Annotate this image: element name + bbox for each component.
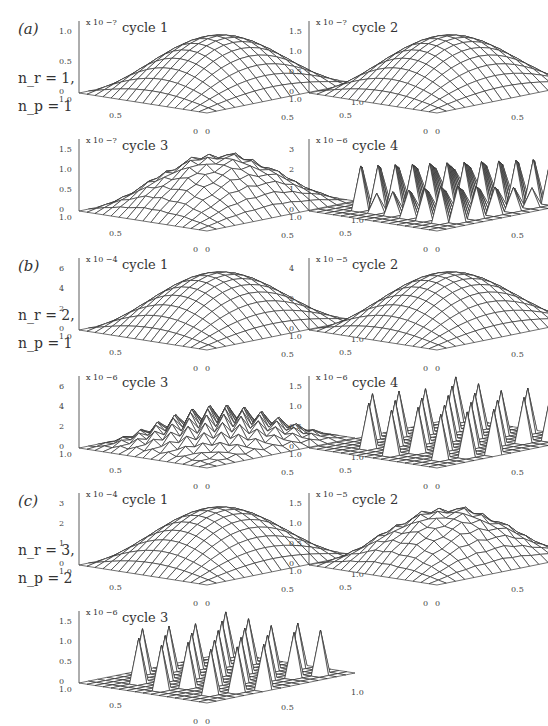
x-tick: 1.0 bbox=[59, 685, 72, 694]
y-tick: 0.5 bbox=[511, 350, 524, 359]
x-tick: 0 bbox=[423, 127, 428, 136]
x-tick: 0 bbox=[423, 364, 428, 373]
mesh-surface bbox=[62, 18, 312, 136]
z-tick: 1.0 bbox=[289, 402, 302, 411]
y-tick: 0.5 bbox=[511, 468, 524, 477]
z-tick: 4 bbox=[289, 264, 294, 273]
mesh-surface bbox=[62, 608, 312, 726]
y-tick: 0 bbox=[205, 127, 210, 136]
surface-plot: x 10 −6cycle 41.51.00.501.00.5000.51.0 bbox=[292, 373, 542, 491]
x-tick: 0 bbox=[193, 364, 198, 373]
y-tick: 0 bbox=[205, 717, 210, 726]
x-tick: 0 bbox=[193, 245, 198, 254]
x-tick: 0.5 bbox=[339, 111, 352, 120]
z-tick: 1.0 bbox=[289, 47, 302, 56]
x-tick: 1.0 bbox=[289, 332, 302, 341]
z-tick: 1.5 bbox=[289, 382, 302, 391]
x-tick: 1.0 bbox=[59, 450, 72, 459]
y-tick: 0 bbox=[205, 599, 210, 608]
mesh-surface bbox=[62, 373, 312, 491]
mesh-surface bbox=[62, 255, 312, 373]
y-tick: 0 bbox=[205, 364, 210, 373]
y-tick: 1.0 bbox=[351, 688, 364, 697]
z-tick: 0.5 bbox=[59, 57, 72, 66]
z-tick: 1.5 bbox=[289, 499, 302, 508]
x-tick: 1.0 bbox=[59, 213, 72, 222]
mesh-surface bbox=[292, 255, 542, 373]
z-tick: 6 bbox=[59, 382, 64, 391]
z-tick: 1.5 bbox=[59, 617, 72, 626]
surface-plot: x 10 −?cycle 11.00.501.00.5000.51.0 bbox=[62, 18, 312, 136]
z-tick: 1 bbox=[289, 185, 294, 194]
z-tick: 2 bbox=[59, 519, 64, 528]
z-tick: 1.0 bbox=[59, 27, 72, 36]
x-tick: 0 bbox=[423, 599, 428, 608]
y-tick: 0.5 bbox=[281, 703, 294, 712]
z-tick: 3 bbox=[59, 499, 64, 508]
x-tick: 0 bbox=[423, 245, 428, 254]
y-tick: 0 bbox=[435, 245, 440, 254]
panel-label: (b) bbox=[18, 257, 39, 275]
z-tick: 1.5 bbox=[59, 145, 72, 154]
z-tick: 2 bbox=[289, 294, 294, 303]
z-tick: 1.0 bbox=[59, 637, 72, 646]
surface-plot: x 10 −4cycle 164201.00.5000.51.0 bbox=[62, 255, 312, 373]
surface-plot: x 10 −5cycle 21.51.00.501.00.5000.51.0 bbox=[292, 490, 542, 608]
surface-plot: x 10 −?cycle 31.51.00.501.00.5000.51.0 bbox=[62, 136, 312, 254]
surface-plot: x 10 −6cycle 31.51.00.501.00.5000.51.0 bbox=[62, 608, 312, 726]
x-tick: 0.5 bbox=[109, 111, 122, 120]
x-tick: 1.0 bbox=[59, 332, 72, 341]
z-tick: 0.5 bbox=[59, 185, 72, 194]
z-tick: 6 bbox=[59, 264, 64, 273]
x-tick: 1.0 bbox=[59, 95, 72, 104]
x-tick: 0.5 bbox=[109, 466, 122, 475]
mesh-surface bbox=[292, 490, 542, 608]
surface-plot: x 10 −4cycle 132101.00.5000.51.0 bbox=[62, 490, 312, 608]
z-tick: 0.5 bbox=[289, 539, 302, 548]
x-tick: 0.5 bbox=[109, 583, 122, 592]
y-tick: 0.5 bbox=[511, 231, 524, 240]
x-tick: 0.5 bbox=[109, 701, 122, 710]
x-tick: 1.0 bbox=[289, 450, 302, 459]
y-tick: 0 bbox=[435, 364, 440, 373]
panel-label: (a) bbox=[18, 20, 39, 38]
mesh-surface bbox=[62, 136, 312, 254]
x-tick: 0.5 bbox=[339, 466, 352, 475]
y-tick: 0.5 bbox=[511, 113, 524, 122]
x-tick: 0.5 bbox=[109, 229, 122, 238]
y-tick: 0 bbox=[435, 127, 440, 136]
z-tick: 2 bbox=[59, 422, 64, 431]
x-tick: 1.0 bbox=[289, 567, 302, 576]
z-tick: 1.0 bbox=[59, 165, 72, 174]
z-tick: 1.5 bbox=[289, 27, 302, 36]
y-tick: 0 bbox=[435, 599, 440, 608]
surface-plot: x 10 −5cycle 24201.00.5000.51.0 bbox=[292, 255, 542, 373]
z-tick: 1.0 bbox=[289, 519, 302, 528]
surface-plot: x 10 −6cycle 364201.00.5000.51.0 bbox=[62, 373, 312, 491]
z-tick: 4 bbox=[59, 402, 64, 411]
z-tick: 0.5 bbox=[59, 657, 72, 666]
x-tick: 1.0 bbox=[59, 567, 72, 576]
x-tick: 0.5 bbox=[339, 229, 352, 238]
z-tick: 0.5 bbox=[289, 422, 302, 431]
z-tick: 0.5 bbox=[289, 67, 302, 76]
x-tick: 0.5 bbox=[109, 348, 122, 357]
z-tick: 4 bbox=[59, 284, 64, 293]
z-tick: 1 bbox=[59, 539, 64, 548]
x-tick: 1.0 bbox=[289, 95, 302, 104]
mesh-surface bbox=[292, 136, 542, 254]
x-tick: 0 bbox=[193, 127, 198, 136]
z-tick: 2 bbox=[289, 165, 294, 174]
surface-plot: x 10 −6cycle 432101.00.5000.51.0 bbox=[292, 136, 542, 254]
y-tick: 0 bbox=[205, 245, 210, 254]
z-tick: 3 bbox=[289, 145, 294, 154]
mesh-surface bbox=[292, 373, 542, 491]
x-tick: 0 bbox=[193, 599, 198, 608]
x-tick: 1.0 bbox=[289, 213, 302, 222]
mesh-surface bbox=[292, 18, 542, 136]
x-tick: 0 bbox=[193, 717, 198, 726]
mesh-surface bbox=[62, 490, 312, 608]
panel-label: (c) bbox=[18, 492, 38, 510]
surface-plot: x 10 −?cycle 21.51.00.501.00.5000.51.0 bbox=[292, 18, 542, 136]
y-tick: 0.5 bbox=[511, 585, 524, 594]
